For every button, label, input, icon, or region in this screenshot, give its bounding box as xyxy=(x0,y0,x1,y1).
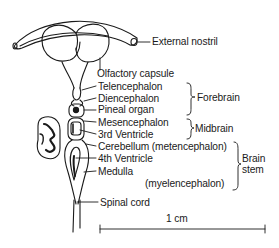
forebrain-brace xyxy=(187,83,195,115)
label-third-ventricle: 3rd Ventricle xyxy=(98,129,153,140)
pineal-organ-shape xyxy=(69,104,84,117)
telencephalon-shape xyxy=(73,88,81,100)
label-external-nostril: External nostril xyxy=(152,36,218,47)
label-cerebellum: Cerebellum (metencephalon) xyxy=(98,141,227,152)
scale-bar xyxy=(100,225,265,233)
label-myelencephalon: (myelencephalon) xyxy=(145,178,224,189)
group-label-brain-stem-line2: stem xyxy=(242,164,264,175)
label-diencephalon: Diencephalon xyxy=(98,93,159,104)
label-pineal-organ: Pineal organ xyxy=(98,104,154,115)
label-fourth-ventricle: 4th Ventricle xyxy=(98,153,153,164)
spinal-cord-shape xyxy=(73,200,80,232)
label-olfactory-capsule: Olfactory capsule xyxy=(97,68,174,79)
scale-bar-label: 1 cm xyxy=(166,213,188,224)
label-spinal-cord: Spinal cord xyxy=(100,197,150,208)
leader-cerebellum xyxy=(86,144,96,146)
group-label-midbrain: Midbrain xyxy=(195,123,233,134)
leader-diencephalon xyxy=(84,98,96,101)
olfactory-capsule-shape xyxy=(42,24,109,70)
midbrain-brace xyxy=(187,119,194,139)
leader-telencephalon xyxy=(82,86,96,90)
olfactory-tract-shape xyxy=(62,62,88,88)
diencephalon-shape xyxy=(71,100,82,106)
brain-stem-brace xyxy=(233,142,241,190)
group-label-brain-stem-line1: Brain xyxy=(242,153,265,164)
nasal-arch-shape xyxy=(13,21,137,49)
group-label-forebrain: Forebrain xyxy=(197,92,240,103)
mesencephalon-shape xyxy=(68,118,84,140)
label-telencephalon: Telencephalon xyxy=(98,81,162,92)
label-medulla: Medulla xyxy=(98,166,133,177)
leader-third-ventricle xyxy=(80,130,96,134)
optic-lobe-shape xyxy=(37,117,60,159)
label-mesencephalon: Mesencephalon xyxy=(98,117,169,128)
brain-diagram: External nostril Olfactory capsule Telen… xyxy=(0,0,279,248)
leader-mesencephalon xyxy=(84,121,96,122)
